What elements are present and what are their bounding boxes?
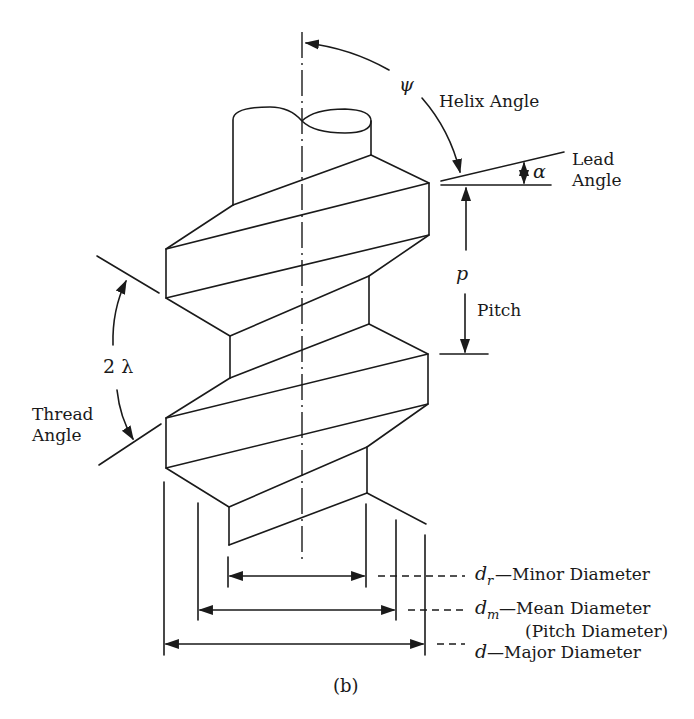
lower-thread [166, 324, 428, 545]
minor-diameter-symbol: d [475, 562, 487, 584]
extension-lines [164, 482, 425, 655]
lead-angle-symbol: α [533, 160, 546, 182]
helix-angle-symbol: ψ [399, 73, 415, 95]
upper-thread [166, 155, 429, 378]
pitch-label: Pitch [477, 300, 521, 320]
helix-angle-label: Helix Angle [439, 91, 539, 111]
helix-angle-annotation: ψ Helix Angle [306, 43, 539, 172]
pitch-symbol: p [456, 262, 468, 284]
lead-angle-label-line2: Angle [571, 170, 622, 190]
figure-caption: (b) [333, 675, 359, 696]
minor-diameter-label: —Minor Diameter [495, 564, 651, 584]
mean-diameter-subscript: m [487, 607, 499, 622]
diameter-dimensions [166, 576, 465, 644]
lead-angle-label-line1: Lead [572, 149, 614, 169]
screw-thread-diagram: ψ Helix Angle α Lead Angle p Pitch 2 λ T… [0, 0, 694, 719]
minor-diameter-subscript: r [487, 573, 494, 588]
major-diameter-symbol: d [475, 640, 487, 662]
thread-angle-symbol: 2 λ [103, 355, 133, 377]
mean-diameter-symbol: d [475, 596, 487, 618]
pitch-diameter-note: (Pitch Diameter) [525, 621, 668, 641]
thread-angle-label-line1: Thread [32, 404, 94, 424]
lead-angle-annotation: α Lead Angle [441, 149, 622, 190]
mean-diameter-label: —Mean Diameter [499, 598, 651, 618]
major-diameter-label: —Major Diameter [487, 642, 642, 662]
diameter-labels: d r —Minor Diameter d m —Mean Diameter (… [475, 562, 668, 662]
pitch-annotation: p Pitch [440, 188, 521, 354]
thread-angle-label-line2: Angle [31, 425, 82, 445]
thread-angle-annotation: 2 λ Thread Angle [31, 256, 161, 465]
